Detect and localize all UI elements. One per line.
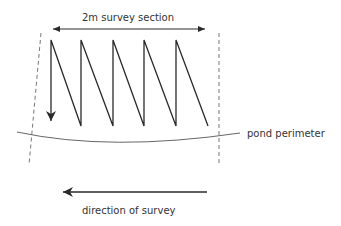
- left-boundary-line: [29, 33, 41, 165]
- pond-perimeter-curve: [17, 132, 240, 142]
- pond-perimeter-label: pond perimeter: [247, 128, 326, 139]
- section-width-label: 2m survey section: [82, 12, 174, 23]
- survey-diagram: 2m survey section pond perimeter directi…: [0, 0, 341, 226]
- survey-path: [51, 40, 208, 126]
- direction-label: direction of survey: [82, 205, 176, 216]
